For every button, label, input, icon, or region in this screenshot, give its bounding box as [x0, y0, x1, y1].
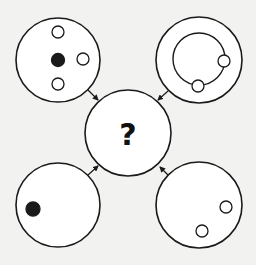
- hollow-dot: [196, 225, 208, 237]
- question-mark: ?: [119, 117, 136, 152]
- hollow-dot: [220, 201, 232, 213]
- center-panel: ?: [85, 90, 171, 176]
- arrow-icon: [88, 90, 98, 100]
- hollow-dot: [218, 55, 230, 67]
- arrow-icon: [88, 166, 98, 175]
- arrow-icon: [160, 167, 168, 175]
- panel-top-left: [16, 18, 100, 102]
- puzzle-canvas: ?: [0, 0, 256, 265]
- filled-dot: [52, 54, 65, 67]
- arrow-icon: [158, 91, 168, 100]
- hollow-dot: [52, 26, 64, 38]
- panel-bottom-right: [156, 162, 242, 248]
- hollow-dot: [77, 53, 89, 65]
- puzzle-diagram: ?: [0, 0, 256, 265]
- panel-top-right: [156, 17, 242, 103]
- hollow-dot: [52, 78, 64, 90]
- hollow-dot: [192, 80, 204, 92]
- panel-bottom-left: [16, 163, 100, 247]
- filled-dot: [26, 202, 40, 216]
